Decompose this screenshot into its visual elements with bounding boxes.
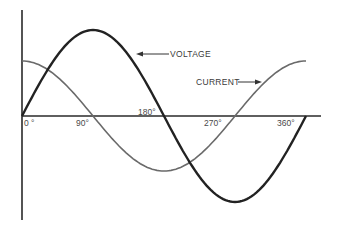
tick-0-label: 0 °: [24, 119, 35, 128]
tick-180-label: 180°: [138, 108, 156, 117]
current-label: CURRENT: [196, 78, 240, 87]
tick-360-label: 360°: [277, 119, 295, 128]
voltage-arrow: [136, 52, 169, 57]
sine-wave-diagram: [0, 0, 337, 231]
voltage-label: VOLTAGE: [170, 50, 211, 59]
current-arrow: [238, 80, 262, 85]
tick-270-label: 270°: [204, 119, 222, 128]
tick-90-label: 90°: [76, 119, 89, 128]
